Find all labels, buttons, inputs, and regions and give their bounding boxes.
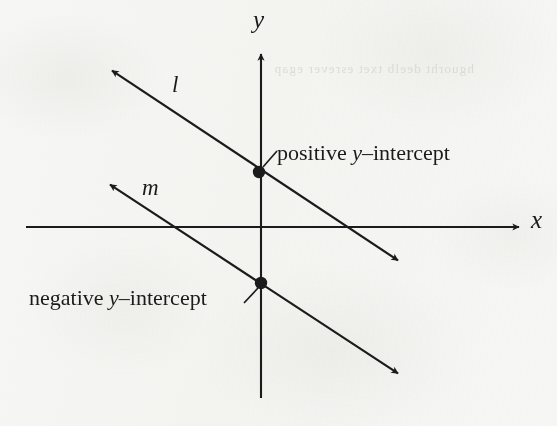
positive-callout-variable: y: [352, 140, 362, 165]
positive-callout-prefix: positive: [277, 140, 352, 165]
negative-callout-suffix: –intercept: [119, 285, 207, 310]
negative-y-intercept-label: negative y–intercept: [29, 285, 207, 311]
negative-intercept-leader-line: [244, 288, 258, 303]
y-axis-label: y: [253, 6, 264, 34]
positive-intercept-leader-line: [263, 151, 277, 167]
line-m: [110, 185, 398, 374]
positive-y-intercept-dot: [253, 166, 265, 178]
negative-callout-prefix: negative: [29, 285, 109, 310]
positive-y-intercept-label: positive y–intercept: [277, 140, 450, 166]
negative-callout-variable: y: [109, 285, 119, 310]
coordinate-plane-drawing: [0, 0, 557, 426]
linear-equations-intercept-figure: hguorht deelb txet esrever egap y x l m …: [0, 0, 557, 426]
x-axis-label: x: [531, 206, 542, 234]
negative-y-intercept-dot: [255, 277, 267, 289]
line-m-label: m: [142, 175, 159, 201]
positive-callout-suffix: –intercept: [362, 140, 450, 165]
line-l-label: l: [172, 72, 178, 98]
